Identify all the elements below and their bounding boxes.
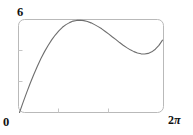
plot-canvas bbox=[0, 0, 193, 135]
plot-frame bbox=[19, 20, 164, 113]
pi-symbol: π bbox=[174, 113, 181, 127]
x-axis-ticks bbox=[59, 109, 109, 113]
curve-path bbox=[20, 20, 163, 112]
math-plot-figure: 6 0 2π bbox=[0, 0, 193, 135]
x-axis-max-label: 2π bbox=[168, 114, 181, 126]
frame-border bbox=[19, 20, 164, 113]
y-axis-max-label: 6 bbox=[17, 6, 23, 19]
y-axis-ticks bbox=[19, 51, 23, 82]
origin-label: 0 bbox=[3, 116, 9, 129]
